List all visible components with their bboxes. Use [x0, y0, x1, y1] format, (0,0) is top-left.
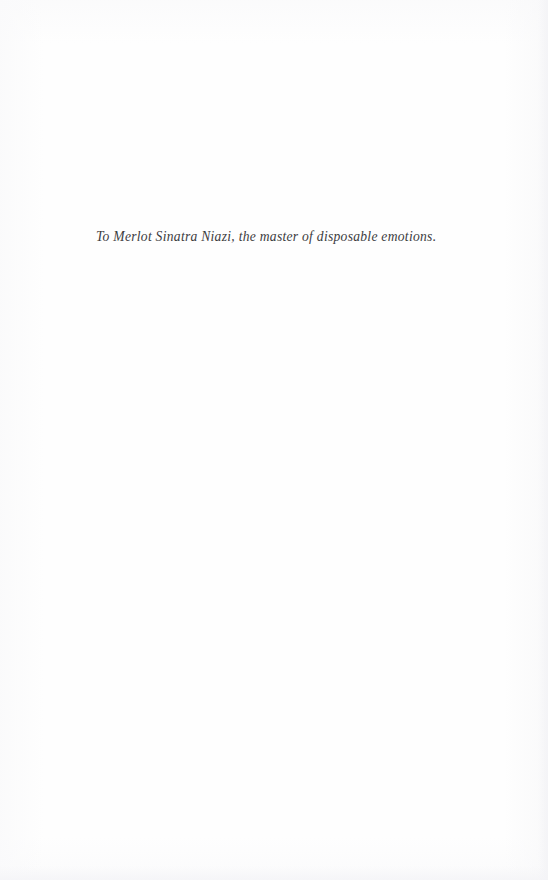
- dedication-text: To Merlot Sinatra Niazi, the master of d…: [96, 228, 426, 246]
- scan-edge-shadow-right: [538, 0, 548, 880]
- paper-texture: [0, 0, 548, 880]
- scan-edge-shadow-bottom: [0, 866, 548, 880]
- document-page: To Merlot Sinatra Niazi, the master of d…: [0, 0, 548, 880]
- dedication-block: To Merlot Sinatra Niazi, the master of d…: [96, 228, 426, 246]
